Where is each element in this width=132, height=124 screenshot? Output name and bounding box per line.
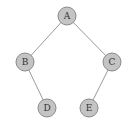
node-b-label: B	[22, 57, 29, 67]
edges	[25, 16, 112, 108]
edge-a-c	[67, 16, 112, 62]
node-d-label: D	[43, 103, 50, 113]
node-c-label: C	[109, 57, 116, 67]
node-b: B	[16, 53, 34, 71]
node-d: D	[38, 99, 56, 117]
node-e-label: E	[86, 103, 93, 113]
tree-diagram: A B C D E	[0, 0, 132, 124]
node-a-label: A	[63, 11, 71, 21]
node-a: A	[58, 7, 76, 25]
node-c: C	[103, 53, 121, 71]
node-e: E	[80, 99, 98, 117]
